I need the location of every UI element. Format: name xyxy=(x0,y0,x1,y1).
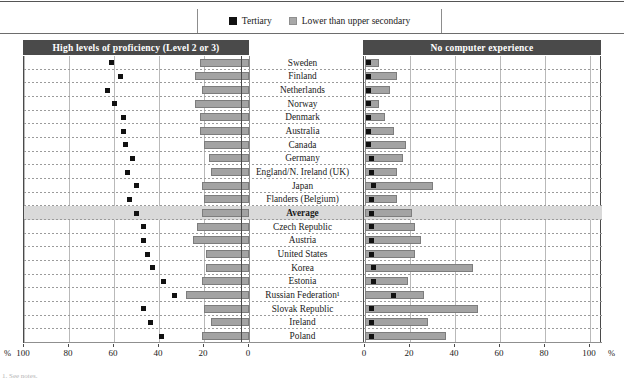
marker-left-tertiary xyxy=(112,101,117,106)
chart-row: Flanders (Belgium) xyxy=(24,193,602,207)
marker-left-tertiary xyxy=(134,211,139,216)
black-square-icon xyxy=(229,17,237,25)
marker-right-tertiary xyxy=(369,211,374,216)
marker-right-tertiary xyxy=(366,101,371,106)
country-label: Netherlands xyxy=(242,83,363,97)
marker-left-tertiary xyxy=(161,279,166,284)
country-label: Australia xyxy=(242,124,363,138)
marker-left-tertiary xyxy=(159,334,164,339)
marker-left-tertiary xyxy=(118,74,123,79)
marker-left-tertiary xyxy=(121,129,126,134)
bar-right-lower-secondary xyxy=(365,264,473,272)
tick-right-100 xyxy=(589,344,590,347)
chart-row: Slovak Republic xyxy=(24,302,602,316)
bar-right-lower-secondary xyxy=(365,318,428,326)
marker-left-tertiary xyxy=(145,252,150,257)
chart-row: Japan xyxy=(24,179,602,193)
marker-right-tertiary xyxy=(369,170,374,175)
legend-label-lower-secondary: Lower than upper secondary xyxy=(302,16,410,26)
marker-right-tertiary xyxy=(366,142,371,147)
panel-header-right: No computer experience xyxy=(363,40,601,55)
country-label: Estonia xyxy=(242,275,363,289)
marker-right-tertiary xyxy=(366,88,371,93)
marker-right-tertiary xyxy=(369,156,374,161)
tick-left-0 xyxy=(248,344,249,347)
chart-axis: 100806040200020406080100%% xyxy=(0,344,624,366)
tick-label-left-60: 60 xyxy=(109,348,118,358)
chart-row: Denmark xyxy=(24,111,602,125)
marker-left-tertiary xyxy=(109,60,114,65)
legend-item-tertiary: Tertiary xyxy=(229,16,272,26)
tick-label-left-0: 0 xyxy=(246,348,251,358)
country-label: Germany xyxy=(242,152,363,166)
marker-left-tertiary xyxy=(141,238,146,243)
chart-row: Canada xyxy=(24,138,602,152)
marker-right-tertiary xyxy=(371,265,376,270)
chart-row: Poland xyxy=(24,329,602,343)
chart-row: Korea xyxy=(24,261,602,275)
tick-label-right-60: 60 xyxy=(495,348,504,358)
marker-right-tertiary xyxy=(366,74,371,79)
tick-label-left-80: 80 xyxy=(64,348,73,358)
chart-row: Russian Federation¹ xyxy=(24,288,602,302)
footnote: 1. See notes. xyxy=(2,372,37,378)
tick-left-40 xyxy=(158,344,159,347)
marker-left-tertiary xyxy=(150,265,155,270)
country-label: Czech Republic xyxy=(242,220,363,234)
marker-left-tertiary xyxy=(141,306,146,311)
bar-left-lower-secondary xyxy=(186,291,249,299)
bar-right-lower-secondary xyxy=(365,332,446,340)
legend-label-tertiary: Tertiary xyxy=(242,16,272,26)
axis-unit-left: % xyxy=(4,348,11,358)
tick-right-40 xyxy=(454,344,455,347)
tick-label-left-40: 40 xyxy=(154,348,163,358)
chart-row: Average xyxy=(24,206,602,220)
chart-row: United States xyxy=(24,247,602,261)
marker-right-tertiary xyxy=(369,320,374,325)
country-label: England/N. Ireland (UK) xyxy=(242,165,363,179)
legend-divider xyxy=(0,33,624,34)
country-label: Poland xyxy=(242,329,363,343)
country-label: Austria xyxy=(242,234,363,248)
tick-right-0 xyxy=(364,344,365,347)
marker-left-tertiary xyxy=(134,183,139,188)
country-label: United States xyxy=(242,247,363,261)
marker-left-tertiary xyxy=(105,88,110,93)
country-label: Finland xyxy=(242,70,363,84)
top-divider xyxy=(0,1,624,2)
marker-left-tertiary xyxy=(141,224,146,229)
chart-row: Austria xyxy=(24,234,602,248)
tick-left-80 xyxy=(68,344,69,347)
chart-row: England/N. Ireland (UK) xyxy=(24,165,602,179)
chart-plot-area: SwedenFinlandNetherlandsNorwayDenmarkAus… xyxy=(23,56,601,343)
marker-left-tertiary xyxy=(172,293,177,298)
country-label: Korea xyxy=(242,261,363,275)
chart-row: Estonia xyxy=(24,275,602,289)
country-label: Denmark xyxy=(242,111,363,125)
marker-right-tertiary xyxy=(369,334,374,339)
marker-right-tertiary xyxy=(366,60,371,65)
country-label: Canada xyxy=(242,138,363,152)
marker-right-tertiary xyxy=(366,115,371,120)
country-label: Slovak Republic xyxy=(242,302,363,316)
chart-row: Norway xyxy=(24,97,602,111)
marker-left-tertiary xyxy=(121,115,126,120)
chart-legend: Tertiary Lower than upper secondary xyxy=(197,9,442,33)
chart-row: Finland xyxy=(24,70,602,84)
tick-left-20 xyxy=(203,344,204,347)
chart-row: Ireland xyxy=(24,316,602,330)
country-label: Sweden xyxy=(242,56,363,70)
tick-left-60 xyxy=(113,344,114,347)
marker-right-tertiary xyxy=(369,252,374,257)
axis-unit-right: % xyxy=(608,348,615,358)
chart-row: Czech Republic xyxy=(24,220,602,234)
marker-right-tertiary xyxy=(371,279,376,284)
tick-label-right-40: 40 xyxy=(450,348,459,358)
tick-label-left-100: 100 xyxy=(16,348,30,358)
country-label: Ireland xyxy=(242,316,363,330)
panel-header-left: High levels of proficiency (Level 2 or 3… xyxy=(23,40,249,55)
chart-row: Australia xyxy=(24,124,602,138)
country-label: Russian Federation¹ xyxy=(242,288,363,302)
tick-label-right-0: 0 xyxy=(362,348,367,358)
tick-right-60 xyxy=(499,344,500,347)
